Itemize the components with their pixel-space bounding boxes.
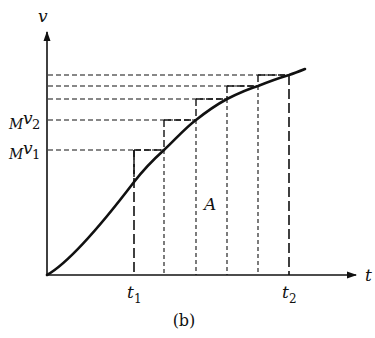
intermediate-sample-lines bbox=[164, 86, 258, 275]
svg-text:2: 2 bbox=[32, 117, 40, 132]
boundary-lines bbox=[134, 75, 289, 275]
x-tick-t2: t 2 bbox=[282, 282, 297, 306]
y-tick-mv2: M v 2 bbox=[8, 108, 40, 132]
area-label: A bbox=[202, 194, 216, 214]
x-tick-t1: t 1 bbox=[127, 282, 142, 306]
svg-text:1: 1 bbox=[134, 292, 142, 306]
y-axis-label: v bbox=[38, 6, 48, 26]
figure-caption: (b) bbox=[173, 311, 196, 330]
y-tick-mv1: M v 1 bbox=[8, 138, 40, 162]
svg-text:1: 1 bbox=[32, 147, 40, 162]
svg-text:M: M bbox=[8, 146, 24, 162]
svg-text:M: M bbox=[8, 116, 24, 132]
staircase-steps bbox=[134, 75, 289, 182]
svg-text:t: t bbox=[282, 282, 289, 302]
velocity-curve bbox=[47, 69, 305, 275]
x-axis-label: t bbox=[365, 265, 372, 285]
svg-text:2: 2 bbox=[289, 292, 297, 306]
velocity-time-diagram: v t M v 2 M v 1 t 1 t 2 A (b) bbox=[0, 0, 375, 338]
svg-text:t: t bbox=[127, 282, 134, 302]
